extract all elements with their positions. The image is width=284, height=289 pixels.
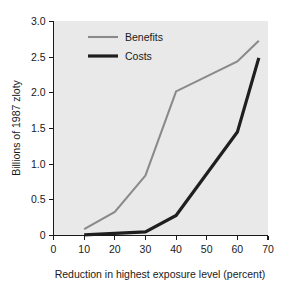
benefits-costs-line-chart: 00.51.01.52.02.53.0 010203040506070 Bene… [0, 0, 284, 289]
y-tick-label: 2.0 [31, 86, 46, 98]
x-axis-tick-labels: 010203040506070 [51, 243, 274, 255]
plot-area-background [53, 21, 268, 235]
x-tick-label: 70 [262, 243, 274, 255]
y-axis-ticks [49, 22, 54, 236]
x-tick-label: 30 [140, 243, 152, 255]
y-axis-tick-labels: 00.51.01.52.02.53.0 [31, 15, 46, 241]
y-axis-title: Billions of 1987 zloty [10, 79, 22, 175]
x-axis-title: Reduction in highest exposure level (per… [55, 268, 266, 280]
y-tick-label: 2.5 [31, 51, 46, 63]
chart-figure: 00.51.01.52.02.53.0 010203040506070 Bene… [0, 0, 284, 289]
y-tick-label: 0 [40, 229, 46, 241]
y-tick-label: 1.0 [31, 158, 46, 170]
y-tick-label: 0.5 [31, 193, 46, 205]
x-tick-label: 50 [201, 243, 213, 255]
x-tick-label: 0 [51, 243, 57, 255]
x-tick-label: 40 [170, 243, 182, 255]
legend-label-benefits: Benefits [125, 31, 163, 43]
x-tick-label: 60 [232, 243, 244, 255]
y-tick-label: 1.5 [31, 122, 46, 134]
x-tick-label: 10 [78, 243, 90, 255]
x-tick-label: 20 [109, 243, 121, 255]
legend-label-costs: Costs [125, 50, 152, 62]
y-tick-label: 3.0 [31, 15, 46, 27]
